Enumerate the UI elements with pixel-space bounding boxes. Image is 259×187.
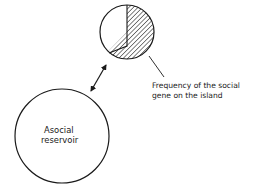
- island-pie: [100, 5, 154, 59]
- reservoir-label-line2: reservoir: [41, 135, 79, 145]
- island-label-line1: Frequency of the social: [152, 81, 240, 90]
- diagram-canvas: Frequency of the social gene on the isla…: [0, 0, 259, 187]
- leader-line: [149, 56, 164, 77]
- migration-arrow: [91, 65, 106, 91]
- island-label-line2: gene on the island: [152, 91, 223, 100]
- reservoir-label-line1: Asocial: [44, 125, 74, 135]
